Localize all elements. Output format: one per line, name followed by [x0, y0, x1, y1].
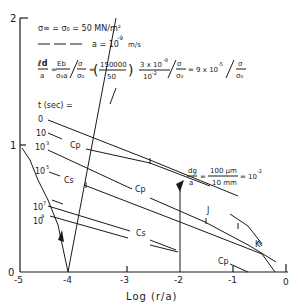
eq-ld: ℓd — [37, 59, 48, 68]
eq-sigma0-2: σ₀ — [176, 72, 183, 80]
x-tick-label--5: -5 — [14, 275, 23, 285]
time-label-10-7: 10 — [33, 203, 43, 212]
curve-t10-a — [48, 133, 62, 139]
region-label-cs-2: Cs — [136, 229, 146, 238]
eq-leader-line — [110, 88, 116, 104]
eq-a: a — [40, 72, 44, 80]
region-label-cp-1: Cp — [70, 141, 81, 150]
curve-t1e5-b — [84, 185, 180, 222]
eq-sigma0: σ₀ — [77, 72, 84, 80]
eq-3e9: 3 x 10 — [140, 61, 162, 69]
dg-result: = 10 — [240, 173, 257, 181]
y-tick-label-2: 2 — [10, 13, 16, 24]
fracture-map-chart: 2 1 0 -5 -4 -3 -2 -1 0 Log (r/a) σ∞ = σ₀… — [0, 0, 298, 308]
curve-t1e3-b — [150, 198, 205, 222]
dg-mid-den: 10 mm — [212, 179, 237, 187]
time-label-10-5: 10 — [35, 167, 45, 176]
eq-sigma-3: σ — [238, 60, 243, 68]
dg-equation: dg a = 100 µm 10 mm = 10 -2 — [187, 167, 262, 187]
x-tick-label--2: -2 — [174, 275, 183, 285]
time-label-0: 0 — [38, 115, 43, 124]
curve-t1e7-a — [52, 200, 63, 204]
eq-result: = 9 x 10 — [188, 66, 218, 74]
dg-den: a — [189, 179, 193, 187]
eq-lparen: ( — [93, 62, 98, 78]
rate-unit: m/s — [128, 41, 141, 49]
arrow-head-dg — [176, 180, 184, 192]
time-exp-3: 3 — [46, 140, 49, 146]
x-tick-label--3: -3 — [120, 275, 129, 285]
eq-den: 50 — [107, 73, 116, 81]
curve-t1e3-d — [250, 246, 276, 262]
eq-rparen: ) — [128, 62, 133, 78]
x-tick-label-0: 0 — [283, 277, 289, 287]
eq-sigma: σ — [78, 60, 83, 68]
eq-s0a: σ₀a — [56, 72, 68, 80]
eq-Eb: Eb — [57, 60, 66, 68]
time-exp-5: 5 — [46, 164, 49, 170]
rate-exp: -9 — [117, 34, 123, 41]
time-label-10: 10 — [36, 129, 46, 138]
eq-result-exp: -5 — [218, 61, 223, 67]
eq-3e9-exp: -9 — [163, 57, 168, 63]
curve-t0-b — [150, 160, 238, 196]
curve-cs-lower-b — [150, 245, 178, 252]
region-label-cp-3: Cp — [218, 257, 229, 266]
x-tick-label--4: -4 — [63, 275, 72, 285]
eq-1e2-exp: -2 — [152, 70, 157, 76]
ld-equation: ℓd a = Eb σ₀a σ σ₀ = ( 150000 50 ) 3 x 1… — [37, 57, 246, 81]
eq-1e2: 10 — [143, 73, 152, 81]
eq-sigma0-3: σ₀ — [236, 72, 243, 80]
eq-slash-3 — [226, 60, 234, 78]
x-axis-label: Log (r/a) — [126, 291, 177, 302]
curve-j-k — [230, 214, 248, 226]
curve-t1e5-c — [180, 222, 262, 254]
dg-result-exp: -2 — [257, 168, 262, 174]
dg-equals: = — [200, 173, 206, 181]
rate-label: a = 10 — [92, 40, 119, 49]
time-exp-9: 9 — [41, 213, 44, 219]
eq-num: 150000 — [100, 61, 127, 69]
dg-num: dg — [188, 167, 197, 175]
region-label-j: J — [206, 206, 209, 215]
x-tick-label--1: -1 — [228, 275, 237, 285]
curve-t1e5-d — [262, 254, 275, 272]
y-tick-label-1: 1 — [10, 140, 16, 151]
stress-annotation: σ∞ = σ₀ = 50 MN/m² — [38, 24, 121, 33]
time-label-10-3: 10 — [35, 143, 45, 152]
time-exp-7: 7 — [43, 200, 46, 206]
time-header: t (sec) = — [38, 101, 73, 110]
curve-t0-a — [48, 120, 150, 160]
eq-slash-2 — [168, 60, 176, 78]
dg-mid-num: 100 µm — [210, 167, 237, 175]
region-label-cp-2: Cp — [135, 185, 146, 194]
eq-sigma-2: σ — [177, 60, 182, 68]
region-label-cs-1: Cs — [64, 176, 74, 185]
curve-t1e5-a — [49, 172, 60, 176]
arrow-head-left — [58, 230, 64, 242]
